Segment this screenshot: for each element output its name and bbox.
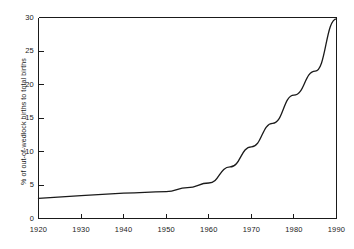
x-tick-label: 1990	[328, 226, 346, 234]
x-tick-label: 1980	[285, 226, 303, 234]
line-chart-plot	[0, 0, 354, 249]
y-axis-title: % of out-of-wedlock births to total birt…	[20, 47, 27, 197]
y-tick-label: 30	[12, 14, 34, 22]
x-tick-label: 1940	[115, 226, 133, 234]
x-tick-label: 1970	[243, 226, 261, 234]
tick-marks	[39, 18, 337, 219]
x-tick-label: 1930	[72, 226, 90, 234]
x-tick-label: 1920	[30, 226, 48, 234]
data-series-group	[39, 19, 337, 199]
x-tick-label: 1950	[157, 226, 175, 234]
data-line	[39, 19, 337, 199]
x-tick-label: 1960	[200, 226, 218, 234]
y-tick-label: 0	[12, 215, 34, 223]
chart-container: 051015202530 192019301940195019601970198…	[0, 0, 354, 249]
axis-frame	[39, 18, 337, 219]
